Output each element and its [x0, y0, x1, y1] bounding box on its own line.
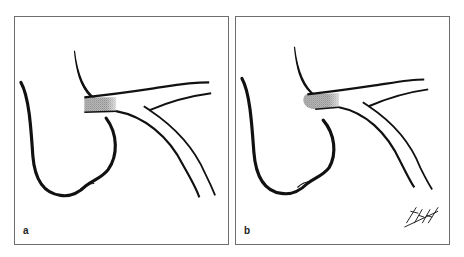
vessel-top [84, 82, 209, 97]
branch-upper [363, 89, 428, 106]
panel-label-a: a [23, 225, 29, 236]
upper-vessel-wall [74, 51, 96, 100]
branch-lower [369, 106, 432, 189]
branch-upper [144, 93, 211, 110]
branch-lower [150, 110, 215, 195]
upper-vessel-wall [294, 47, 316, 97]
vessel-lower [339, 107, 414, 187]
panel-a: a [14, 16, 229, 245]
vessel-lower [116, 111, 199, 197]
panel-b: b [235, 16, 450, 245]
illustration-a [15, 17, 228, 244]
illustration-b [236, 17, 449, 244]
vessel-top [307, 79, 424, 94]
panel-label-b: b [244, 225, 250, 236]
artist-signature [404, 207, 438, 227]
